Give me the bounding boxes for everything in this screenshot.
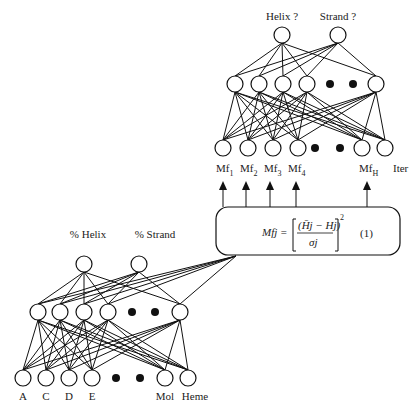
equation-number: (1)	[360, 227, 373, 240]
ellipsis-dot	[349, 80, 357, 88]
lower-hidden-node	[172, 304, 188, 320]
upper-hidden-node	[251, 76, 267, 92]
lower-input-node	[84, 370, 100, 386]
lower-input-label: C	[42, 390, 49, 402]
equation-denominator: σj	[309, 236, 317, 248]
arrow-head-icon	[219, 181, 227, 190]
ellipsis-dot	[336, 144, 344, 152]
upper-hidden-node	[275, 76, 291, 92]
lower-input-label: A	[19, 390, 27, 402]
lower-input-label: Heme	[182, 390, 208, 402]
upper-input-label: Mf1	[216, 162, 233, 178]
upper-edge-hidden-input	[376, 92, 385, 140]
lower-hidden-node	[100, 304, 116, 320]
lower-input-label: D	[65, 390, 73, 402]
lower-input-label: Mol	[156, 390, 174, 402]
upper-hidden-node	[227, 76, 243, 92]
ellipsis-dot	[136, 374, 144, 382]
lower-hidden-node	[52, 304, 68, 320]
upper-edge-output-hidden	[282, 43, 283, 76]
upper-output-label-helix: Helix ?	[266, 10, 298, 22]
lower-output-node	[76, 256, 92, 272]
upper-input-label: Mf2	[240, 162, 257, 178]
equation-lhs: Mfj =	[261, 226, 287, 238]
arrow-head-icon	[292, 181, 300, 190]
lower-input-label: E	[89, 390, 96, 402]
ellipsis-dot	[128, 308, 136, 316]
upper-output-node	[330, 27, 346, 43]
lower-input-node	[157, 370, 173, 386]
lower-edge-hidden-input	[180, 320, 188, 370]
upper-output-node	[274, 27, 290, 43]
lower-input-node	[61, 370, 77, 386]
lower-edge-hidden-input	[23, 320, 60, 370]
ellipsis-dot	[326, 80, 334, 88]
upper-edge-output-hidden	[235, 43, 282, 76]
upper-input-labels: Mf1 Mf2 Mf3 Mf4 MfH Iter	[216, 162, 409, 178]
lower-input-node	[180, 370, 196, 386]
upper-input-node	[354, 140, 370, 156]
upper-input-node	[240, 140, 256, 156]
upper-input-node	[215, 140, 231, 156]
arrow-head-icon	[363, 181, 371, 190]
lower-hidden-node	[76, 304, 92, 320]
upper-input-node	[290, 140, 306, 156]
lower-output-label-helix: % Helix	[70, 228, 107, 240]
equation-numerator: (H̄j − Hj)	[298, 219, 341, 232]
neural-network-diagram: Mfj = (H̄j − Hj) σj 2 (1) Helix ? Strand…	[0, 0, 414, 407]
arrow-head-icon	[266, 181, 274, 190]
upper-input-label: MfH	[359, 162, 378, 178]
upper-input-label: Mf4	[288, 162, 305, 178]
upper-edge-hidden-input	[273, 92, 376, 140]
upper-input-label: Mf3	[264, 162, 281, 178]
lower-input-node	[15, 370, 31, 386]
upper-input-node	[265, 140, 281, 156]
lower-edge-hidden-input	[46, 320, 108, 370]
arrow-head-icon	[242, 181, 250, 190]
lower-input-labels: A C D E Mol Heme	[19, 390, 208, 402]
upper-hidden-node	[368, 76, 384, 92]
upper-output-label-strand: Strand ?	[320, 10, 356, 22]
upper-hidden-node	[299, 76, 315, 92]
ellipsis-dot	[311, 144, 319, 152]
box-to-lower-hidden-edge	[108, 256, 236, 304]
lower-output-label-strand: % Strand	[135, 228, 176, 240]
upper-edge-output-hidden	[338, 43, 376, 76]
upper-input-node	[377, 140, 393, 156]
upper-input-label-iter: Iter	[393, 162, 409, 174]
equation-exponent: 2	[340, 213, 344, 222]
input-arrows	[219, 181, 371, 207]
lower-input-node	[38, 370, 54, 386]
lower-edge-hidden-input	[108, 320, 188, 370]
ellipsis-dot	[151, 308, 159, 316]
lower-hidden-node	[30, 304, 46, 320]
ellipsis-dot	[112, 374, 120, 382]
lower-output-node	[131, 256, 147, 272]
